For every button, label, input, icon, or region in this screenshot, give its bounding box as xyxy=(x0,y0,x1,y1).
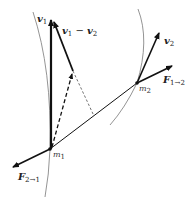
projection-dashed-line xyxy=(73,71,94,116)
label-m1: m1 xyxy=(53,151,65,161)
label-f12: F1→2 xyxy=(163,75,185,87)
label-v1: v1 xyxy=(37,14,47,26)
dashed-v2-copy xyxy=(52,74,72,147)
label-v2: v2 xyxy=(164,36,174,48)
trajectory-curve-1 xyxy=(33,12,50,197)
trajectory-curve-2 xyxy=(110,9,144,125)
label-m2: m2 xyxy=(139,85,151,95)
label-f21: F2→1 xyxy=(18,172,40,184)
force-line xyxy=(50,83,137,149)
mass-point-m1 xyxy=(48,147,52,151)
label-v1-minus-v2: v1 − v2 xyxy=(62,26,97,38)
force-arrow-f21 xyxy=(13,149,50,167)
velocity-arrow-v2 xyxy=(137,33,159,83)
